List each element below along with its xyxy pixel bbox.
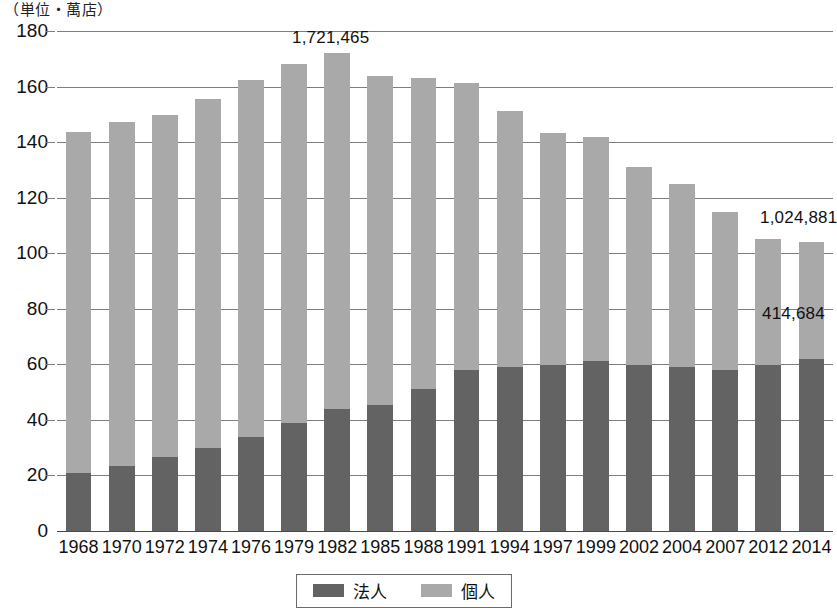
x-axis-label-1972: 1972 xyxy=(143,537,186,558)
y-tick-mark-180 xyxy=(46,31,55,32)
legend-kojin[interactable]: 個人 xyxy=(421,578,495,603)
x-axis-label-1999: 1999 xyxy=(574,537,617,558)
bar-1994[interactable] xyxy=(497,31,523,531)
y-axis-label-160: 160 xyxy=(4,76,48,98)
bar-segment-個人-1972 xyxy=(152,115,178,457)
bar-segment-個人-1991 xyxy=(454,83,480,371)
bar-segment-法人-1985 xyxy=(367,405,393,531)
bar-segment-法人-1988 xyxy=(411,389,437,531)
bar-1991[interactable] xyxy=(454,31,480,531)
bar-2007[interactable] xyxy=(712,31,738,531)
bar-segment-法人-1970 xyxy=(109,466,135,531)
bar-1979[interactable] xyxy=(281,31,307,531)
y-tick-mark-20 xyxy=(46,475,55,476)
bar-1985[interactable] xyxy=(367,31,393,531)
bar-1968[interactable] xyxy=(66,31,92,531)
bar-segment-法人-2002 xyxy=(626,365,652,531)
y-axis-label-40: 40 xyxy=(4,409,48,431)
y-tick-mark-140 xyxy=(46,142,55,143)
bar-segment-個人-2004 xyxy=(669,184,695,368)
bar-1988[interactable] xyxy=(411,31,437,531)
x-axis-label-1979: 1979 xyxy=(273,537,316,558)
bar-segment-法人-1994 xyxy=(497,367,523,531)
bar-segment-法人-1979 xyxy=(281,423,307,531)
bar-segment-個人-1968 xyxy=(66,132,92,472)
x-axis-label-2014: 2014 xyxy=(790,537,833,558)
bar-1974[interactable] xyxy=(195,31,221,531)
bar-segment-個人-1988 xyxy=(411,78,437,390)
y-tick-mark-60 xyxy=(46,364,55,365)
bar-2002[interactable] xyxy=(626,31,652,531)
legend-kojin-swatch-icon xyxy=(421,584,452,597)
bar-segment-個人-1997 xyxy=(540,133,566,366)
y-tick-mark-40 xyxy=(46,420,55,421)
bar-segment-個人-1999 xyxy=(583,137,609,361)
bar-segment-個人-1979 xyxy=(281,64,307,424)
bar-1982[interactable] xyxy=(324,31,350,531)
bar-segment-法人-2004 xyxy=(669,367,695,531)
annotation-2014-total: 1,024,881 xyxy=(760,208,837,228)
x-axis-label-1988: 1988 xyxy=(402,537,445,558)
chart-legend: 法人個人 xyxy=(296,574,512,608)
legend-kojin-label: 個人 xyxy=(461,578,495,603)
bar-segment-法人-2007 xyxy=(712,370,738,531)
bar-segment-個人-2002 xyxy=(626,167,652,366)
x-axis-label-1976: 1976 xyxy=(229,537,272,558)
y-tick-mark-120 xyxy=(46,198,55,199)
y-tick-mark-80 xyxy=(46,309,55,310)
legend-hojin-label: 法人 xyxy=(353,578,387,603)
bar-1976[interactable] xyxy=(238,31,264,531)
bar-segment-法人-1982 xyxy=(324,409,350,531)
bar-2004[interactable] xyxy=(669,31,695,531)
bar-segment-法人-2014 xyxy=(799,359,825,531)
y-axis-label-120: 120 xyxy=(4,187,48,209)
x-axis-label-1994: 1994 xyxy=(488,537,531,558)
y-axis-label-80: 80 xyxy=(4,298,48,320)
bar-segment-個人-1985 xyxy=(367,76,393,405)
bar-segment-法人-1972 xyxy=(152,457,178,531)
x-axis-label-2007: 2007 xyxy=(704,537,747,558)
bar-segment-法人-2012 xyxy=(755,365,781,531)
bar-series-container xyxy=(57,31,833,531)
x-axis-label-1997: 1997 xyxy=(531,537,574,558)
bar-segment-法人-1968 xyxy=(66,473,92,531)
bar-segment-個人-2012 xyxy=(755,239,781,365)
bar-segment-個人-1970 xyxy=(109,122,135,466)
bar-segment-個人-1982 xyxy=(324,53,350,409)
x-axis-label-1970: 1970 xyxy=(100,537,143,558)
legend-hojin[interactable]: 法人 xyxy=(313,578,387,603)
gridline-0 xyxy=(57,531,833,532)
bar-segment-個人-1974 xyxy=(195,99,221,448)
x-axis-label-2004: 2004 xyxy=(661,537,704,558)
bar-segment-個人-2014 xyxy=(799,242,825,358)
y-axis-label-60: 60 xyxy=(4,353,48,375)
bar-segment-個人-2007 xyxy=(712,212,738,371)
bar-segment-法人-1997 xyxy=(540,365,566,531)
bar-1999[interactable] xyxy=(583,31,609,531)
x-axis-label-2012: 2012 xyxy=(747,537,790,558)
y-axis-label-20: 20 xyxy=(4,464,48,486)
x-axis-label-1985: 1985 xyxy=(359,537,402,558)
y-axis-label-140: 140 xyxy=(4,131,48,153)
bar-segment-個人-1994 xyxy=(497,111,523,367)
bar-segment-法人-1974 xyxy=(195,448,221,531)
y-tick-mark-100 xyxy=(46,253,55,254)
bar-1972[interactable] xyxy=(152,31,178,531)
bar-segment-法人-1999 xyxy=(583,361,609,531)
y-axis-label-0: 0 xyxy=(4,520,48,542)
bar-segment-法人-1991 xyxy=(454,370,480,531)
bar-segment-個人-1976 xyxy=(238,80,264,437)
x-axis-label-1974: 1974 xyxy=(186,537,229,558)
bar-2012[interactable] xyxy=(755,31,781,531)
bar-2014[interactable] xyxy=(799,31,825,531)
bar-segment-法人-1976 xyxy=(238,437,264,531)
x-axis-label-1982: 1982 xyxy=(316,537,359,558)
x-axis-label-2002: 2002 xyxy=(617,537,660,558)
bar-1997[interactable] xyxy=(540,31,566,531)
legend-hojin-swatch-icon xyxy=(313,584,344,597)
annotation-2014-hojin: 414,684 xyxy=(762,304,825,324)
y-tick-mark-160 xyxy=(46,87,55,88)
bar-1970[interactable] xyxy=(109,31,135,531)
y-axis-label-100: 100 xyxy=(4,242,48,264)
